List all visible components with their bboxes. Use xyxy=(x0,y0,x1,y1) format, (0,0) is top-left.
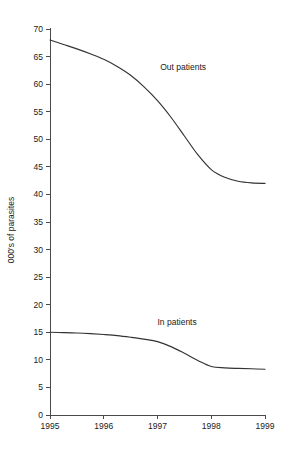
y-tick-label: 55 xyxy=(34,107,44,117)
x-axis-ticks: 19951996199719981999 xyxy=(41,415,275,431)
y-tick-label: 15 xyxy=(34,327,44,337)
x-tick-label: 1998 xyxy=(202,421,221,431)
series-line-out-patients xyxy=(50,40,265,183)
y-tick-label: 45 xyxy=(34,162,44,172)
y-tick-label: 60 xyxy=(34,79,44,89)
series-label-in-patients: In patients xyxy=(158,317,197,327)
x-tick-label: 1995 xyxy=(41,421,60,431)
y-tick-label: 70 xyxy=(34,24,44,34)
series-annotations: Out patientsIn patients xyxy=(158,62,207,327)
y-tick-label: 40 xyxy=(34,189,44,199)
x-tick-label: 1996 xyxy=(94,421,113,431)
y-axis-ticks: 0510152025303540455055606570 xyxy=(34,24,50,420)
y-tick-label: 30 xyxy=(34,245,44,255)
y-tick-label: 65 xyxy=(34,52,44,62)
y-tick-label: 20 xyxy=(34,300,44,310)
y-tick-label: 0 xyxy=(38,410,43,420)
x-tick-label: 1997 xyxy=(148,421,167,431)
y-tick-label: 25 xyxy=(34,272,44,282)
x-tick-label: 1999 xyxy=(256,421,275,431)
chart-container: 0510152025303540455055606570 19951996199… xyxy=(0,0,289,457)
y-tick-label: 10 xyxy=(34,355,44,365)
line-chart: 0510152025303540455055606570 19951996199… xyxy=(0,0,289,457)
y-axis-title: 000's of parasites xyxy=(6,197,16,263)
y-tick-label: 35 xyxy=(34,217,44,227)
y-tick-label: 50 xyxy=(34,134,44,144)
y-tick-label: 5 xyxy=(38,382,43,392)
series-label-out-patients: Out patients xyxy=(160,62,206,72)
series-line-in-patients xyxy=(50,332,265,369)
